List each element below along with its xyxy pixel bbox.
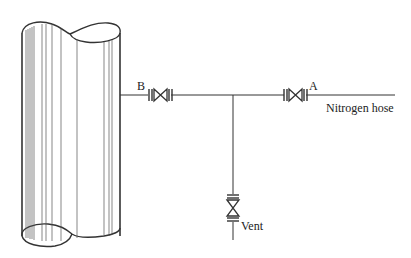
vent-label: Vent — [241, 220, 263, 232]
valve-b-label: B — [137, 80, 145, 92]
nitrogen-hose-label: Nitrogen hose — [326, 102, 394, 114]
vessel-cylinder — [22, 22, 120, 246]
piping-diagram — [0, 0, 411, 258]
valve-b-icon[interactable] — [149, 89, 172, 101]
vent-valve-icon[interactable] — [227, 195, 239, 221]
valve-a-label: A — [309, 80, 318, 92]
valve-a-icon[interactable] — [284, 89, 307, 101]
